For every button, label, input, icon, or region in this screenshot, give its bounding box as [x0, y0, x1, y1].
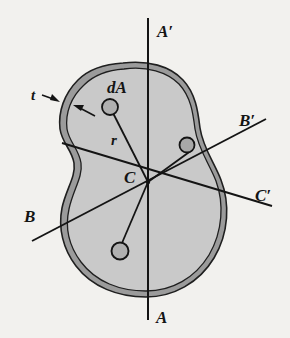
axis-label-a: A	[156, 309, 167, 326]
centroid-label: C	[124, 169, 135, 186]
area-element-top-circle	[102, 99, 118, 115]
axis-label-a-prime: A′	[157, 23, 173, 40]
axis-label-b-prime: B′	[239, 112, 255, 129]
area-element-label: dA	[107, 79, 127, 96]
area-element-bottom-circle	[112, 243, 129, 260]
area-element-right-circle	[180, 138, 195, 153]
cross-section-figure	[0, 0, 290, 338]
radius-label: r	[111, 133, 117, 148]
axis-label-b: B	[24, 208, 35, 225]
thickness-label: t	[31, 88, 35, 103]
axis-label-c-prime: C′	[255, 187, 271, 204]
centroid-point	[146, 180, 150, 184]
